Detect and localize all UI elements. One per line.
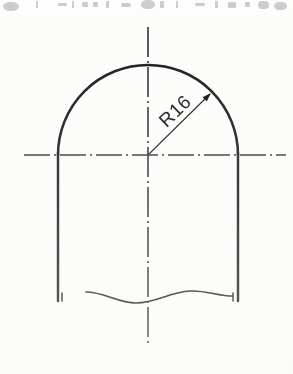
drawing-svg: R16 (0, 0, 293, 374)
technical-drawing-canvas: R16 (0, 0, 293, 374)
radius-dimension-label: R16 (155, 91, 196, 131)
drawing-page: R16 (0, 0, 293, 374)
